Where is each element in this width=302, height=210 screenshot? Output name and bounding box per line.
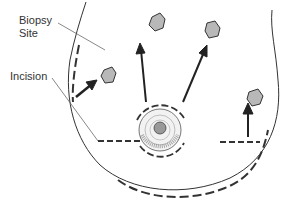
biopsy-lesion-4 (247, 89, 263, 106)
dashed-contour-left (73, 45, 79, 102)
biopsy-lesion-2 (149, 13, 165, 31)
biopsy-incision-diagram: Biopsy Site Incision (0, 0, 302, 210)
biopsy-leader-line (58, 23, 105, 50)
breast-outline (68, 2, 278, 190)
biopsy-lesion-1 (101, 67, 116, 83)
biopsy-label-line1: Biopsy (19, 14, 52, 27)
dashed-contour-bottom (118, 130, 268, 197)
incision-label: Incision (10, 70, 47, 83)
biopsy-site-label: Biopsy Site (19, 14, 52, 40)
biopsy-lesion-3 (205, 21, 220, 38)
biopsy-label-line2: Site (19, 27, 52, 40)
nipple (154, 122, 166, 134)
